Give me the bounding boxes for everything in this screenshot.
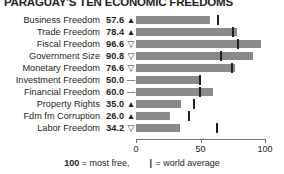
row-label: Labor Freedom xyxy=(0,122,100,134)
row-label: Monetary Freedom xyxy=(0,62,100,74)
row-trend-icon: ▽ xyxy=(126,38,136,50)
row-label: Property Rights xyxy=(0,98,100,110)
axis-tick-label: 50 xyxy=(189,144,213,154)
row-plot xyxy=(136,74,265,86)
row-trend-icon: ▲ xyxy=(126,14,136,26)
row-bar xyxy=(136,40,261,48)
axis-tick-label: 100 xyxy=(253,144,277,154)
chart-row: Financial Freedom60.0— xyxy=(0,86,284,98)
chart-legend: 100 = most free, | = world average xyxy=(0,158,284,168)
row-plot xyxy=(136,14,265,26)
row-bar xyxy=(136,76,201,84)
row-value: 35.0 xyxy=(102,98,124,110)
row-world-average-marker xyxy=(220,51,222,61)
row-world-average-marker xyxy=(199,87,201,97)
row-plot xyxy=(136,122,265,134)
chart-rows: Business Freedom57.6▲Trade Freedom78.4▲F… xyxy=(0,14,284,134)
row-plot xyxy=(136,62,265,74)
row-plot xyxy=(136,38,265,50)
axis-tick xyxy=(265,139,266,143)
row-trend-icon: ▲ xyxy=(126,98,136,110)
chart-row: Government Size90.8▽ xyxy=(0,50,284,62)
row-value: 76.6 xyxy=(102,62,124,74)
legend-most-free-value: 100 xyxy=(64,158,79,168)
row-plot xyxy=(136,86,265,98)
row-plot xyxy=(136,98,265,110)
chart-row: Business Freedom57.6▲ xyxy=(0,14,284,26)
row-world-average-marker xyxy=(232,27,234,37)
row-value: 96.6 xyxy=(102,38,124,50)
row-value: 78.4 xyxy=(102,26,124,38)
chart-row: Fdm fm Corruption26.0▲ xyxy=(0,110,284,122)
row-plot xyxy=(136,26,265,38)
axis-tick xyxy=(136,139,137,143)
chart-row: Trade Freedom78.4▲ xyxy=(0,26,284,38)
row-bar xyxy=(136,64,235,72)
row-trend-icon: ▽ xyxy=(126,50,136,62)
row-value: 90.8 xyxy=(102,50,124,62)
row-value: 26.0 xyxy=(102,110,124,122)
row-trend-icon: ▲ xyxy=(126,26,136,38)
row-trend-icon: ▲ xyxy=(126,110,136,122)
row-value: 57.6 xyxy=(102,14,124,26)
axis-tick xyxy=(201,139,202,143)
chart-row: Property Rights35.0▲ xyxy=(0,98,284,110)
row-plot xyxy=(136,110,265,122)
world-average-marker-icon: | xyxy=(149,158,154,168)
row-value: 50.0 xyxy=(102,74,124,86)
row-bar xyxy=(136,16,210,24)
economic-freedoms-chart: PARAGUAY'S TEN ECONOMIC FREEDOMS Busines… xyxy=(0,0,284,174)
row-world-average-marker xyxy=(216,123,218,133)
row-trend-icon: ▽ xyxy=(126,122,136,134)
row-world-average-marker xyxy=(237,39,239,49)
row-label: Investment Freedom xyxy=(0,74,100,86)
row-bar xyxy=(136,112,170,120)
row-label: Government Size xyxy=(0,50,100,62)
row-bar xyxy=(136,28,237,36)
chart-row: Investment Freedom50.0— xyxy=(0,74,284,86)
row-label: Fiscal Freedom xyxy=(0,38,100,50)
row-bar xyxy=(136,88,213,96)
row-label: Financial Freedom xyxy=(0,86,100,98)
legend-most-free-text: = most free, xyxy=(82,158,130,168)
row-trend-icon: — xyxy=(126,74,136,86)
row-bar xyxy=(136,100,181,108)
row-world-average-marker xyxy=(217,15,219,25)
chart-row: Monetary Freedom76.6▽ xyxy=(0,62,284,74)
chart-title: PARAGUAY'S TEN ECONOMIC FREEDOMS xyxy=(4,0,233,8)
row-trend-icon: ▽ xyxy=(126,62,136,74)
row-plot xyxy=(136,50,265,62)
row-label: Trade Freedom xyxy=(0,26,100,38)
row-value: 34.2 xyxy=(102,122,124,134)
row-world-average-marker xyxy=(199,75,201,85)
chart-row: Labor Freedom34.2▽ xyxy=(0,122,284,134)
row-value: 60.0 xyxy=(102,86,124,98)
row-bar xyxy=(136,124,180,132)
row-bar xyxy=(136,52,253,60)
row-world-average-marker xyxy=(231,63,233,73)
row-world-average-marker xyxy=(193,99,195,109)
row-label: Fdm fm Corruption xyxy=(0,110,100,122)
row-trend-icon: — xyxy=(126,86,136,98)
chart-row: Fiscal Freedom96.6▽ xyxy=(0,38,284,50)
legend-average-text: = world average xyxy=(156,158,220,168)
row-label: Business Freedom xyxy=(0,14,100,26)
axis-tick-label: 0 xyxy=(124,144,148,154)
row-world-average-marker xyxy=(188,111,190,121)
